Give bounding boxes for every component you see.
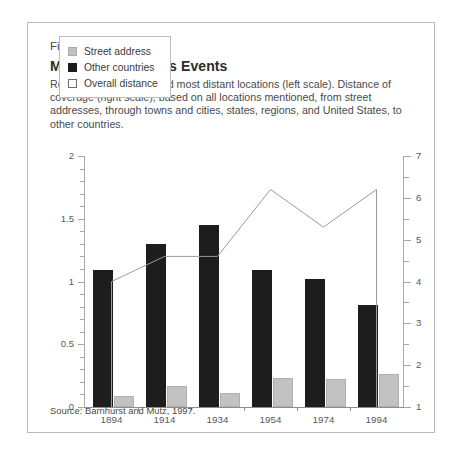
right-axis-tick (404, 156, 411, 157)
legend-item: Other countries (68, 59, 158, 75)
legend-label: Street address (84, 46, 151, 57)
left-axis-tick (78, 344, 85, 345)
x-axis-tick-label: 1954 (241, 414, 301, 425)
overall-distance-line (85, 156, 404, 407)
right-axis-tick-label: 1 (416, 401, 450, 412)
right-axis-tick (404, 407, 411, 408)
right-axis-tick (404, 261, 409, 262)
figure-source: Source: Barnhurst and Mutz, 1997. (50, 405, 195, 416)
chart-legend: Street address Other countries Overall d… (59, 36, 171, 98)
x-axis-tick-label: 1974 (294, 414, 354, 425)
right-axis-tick (404, 344, 409, 345)
left-axis-tick-label: 0.5 (40, 338, 74, 349)
left-axis-tick (78, 219, 85, 220)
x-axis-divider (350, 407, 351, 411)
legend-label: Overall distance (84, 78, 158, 89)
legend-item: Overall distance (68, 75, 158, 91)
right-axis-tick-label: 7 (416, 150, 450, 161)
right-axis-tick (404, 219, 409, 220)
legend-item: Street address (68, 43, 158, 59)
legend-swatch-street-address-icon (68, 47, 77, 56)
chart-plot-area: 00.511.52 1234567 1894191419341954197419… (85, 156, 403, 407)
right-axis-tick-label: 3 (416, 317, 450, 328)
left-axis-tick-label: 1 (40, 276, 74, 287)
figure-frame: Figure 10.1 More Distant News Events Ref… (27, 22, 435, 433)
legend-label: Other countries (84, 62, 154, 73)
right-axis-tick-label: 2 (416, 359, 450, 370)
right-axis-tick (404, 302, 409, 303)
right-axis-tick (404, 240, 411, 241)
right-axis-tick-label: 5 (416, 234, 450, 245)
x-axis-divider (244, 407, 245, 411)
legend-swatch-other-countries-icon (68, 63, 77, 72)
overall-distance-path (112, 189, 377, 407)
right-axis-tick (404, 323, 411, 324)
x-axis-tick-label: 1934 (188, 414, 248, 425)
right-axis-tick (404, 177, 409, 178)
right-axis-tick (404, 282, 411, 283)
right-axis-tick-label: 6 (416, 192, 450, 203)
right-axis-tick (404, 386, 409, 387)
x-axis-divider (297, 407, 298, 411)
left-axis-tick-label: 1.5 (40, 213, 74, 224)
legend-swatch-overall-distance-icon (68, 79, 77, 88)
x-axis-tick-label: 1994 (347, 414, 407, 425)
right-axis-tick (404, 198, 411, 199)
right-axis-tick (404, 365, 411, 366)
right-axis-tick-label: 4 (416, 276, 450, 287)
left-axis-tick (78, 156, 85, 157)
left-axis-tick-label: 2 (40, 150, 74, 161)
left-axis-tick (78, 282, 85, 283)
